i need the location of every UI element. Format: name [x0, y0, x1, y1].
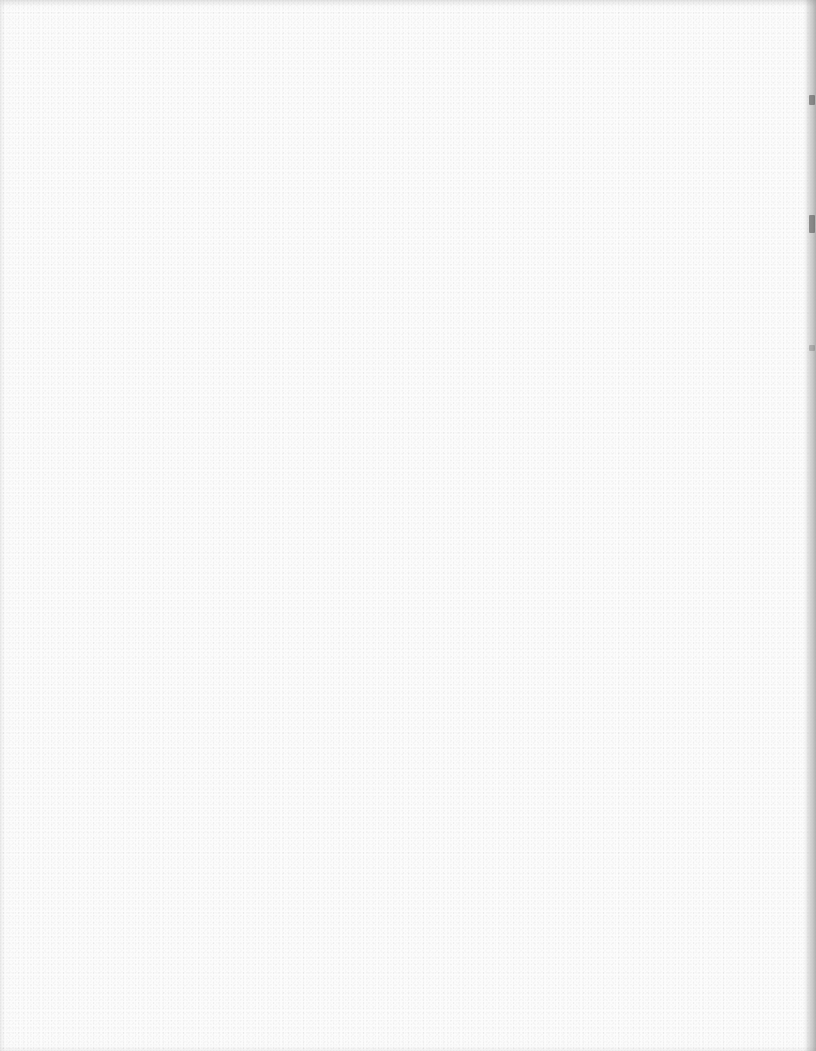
page-content — [72, 72, 744, 979]
scan-edge-artifact — [809, 95, 815, 105]
scan-edge-artifact — [809, 345, 815, 351]
scan-edge-shadow — [804, 0, 816, 1051]
blank-scanned-page — [0, 0, 816, 1051]
scan-edge-artifact — [809, 215, 815, 233]
